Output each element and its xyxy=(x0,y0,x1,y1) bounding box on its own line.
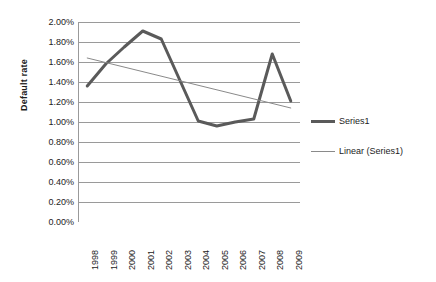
x-axis-tick-label: 1998 xyxy=(91,250,100,270)
default-rate-line-chart: Default rate 0.00%0.20%0.40%0.60%0.80%1.… xyxy=(0,0,436,282)
y-axis-tick-labels: 0.00%0.20%0.40%0.60%0.80%1.00%1.20%1.40%… xyxy=(24,22,74,222)
y-axis-tick-label: 0.40% xyxy=(24,178,74,187)
x-axis-tick-label: 2009 xyxy=(295,250,304,270)
x-axis-tick-label: 2003 xyxy=(184,250,193,270)
legend-item[interactable]: Linear (Series1) xyxy=(311,145,436,157)
legend-item[interactable]: Series1 xyxy=(311,115,436,127)
y-axis-tick-label: 0.20% xyxy=(24,198,74,207)
legend-item-label: Series1 xyxy=(339,116,370,126)
chart-legend: Series1Linear (Series1) xyxy=(311,115,436,175)
plot-area xyxy=(78,22,300,222)
y-axis-tick-label: 0.80% xyxy=(24,138,74,147)
legend-item-label: Linear (Series1) xyxy=(339,146,403,156)
x-axis-tick-label: 2006 xyxy=(239,250,248,270)
x-axis-tick-label: 2002 xyxy=(165,250,174,270)
x-axis-tick-label: 2005 xyxy=(221,250,230,270)
y-axis-tick-label: 1.00% xyxy=(24,118,74,127)
x-axis-tick-label: 2008 xyxy=(276,250,285,270)
x-axis-tick-label: 2007 xyxy=(258,250,267,270)
y-axis-tick-label: 1.60% xyxy=(24,58,74,67)
x-axis-tick-labels: 1998199920002001200220032004200520062007… xyxy=(78,222,300,280)
thick-line-swatch xyxy=(311,116,335,126)
x-axis-tick-label: 2000 xyxy=(128,250,137,270)
data-line-series1 xyxy=(87,31,291,126)
y-axis-tick-label: 1.20% xyxy=(24,98,74,107)
x-axis-tick-label: 2001 xyxy=(147,250,156,270)
y-axis-tick-label: 1.40% xyxy=(24,78,74,87)
x-axis-tick-label: 1999 xyxy=(110,250,119,270)
thin-line-swatch xyxy=(311,146,335,156)
x-axis-tick-label: 2004 xyxy=(202,250,211,270)
plot-svg xyxy=(78,22,300,222)
y-axis-tick-label: 0.00% xyxy=(24,218,74,227)
y-axis-tick-label: 1.80% xyxy=(24,38,74,47)
y-axis-tick-label: 2.00% xyxy=(24,18,74,27)
y-axis-tick-label: 0.60% xyxy=(24,158,74,167)
